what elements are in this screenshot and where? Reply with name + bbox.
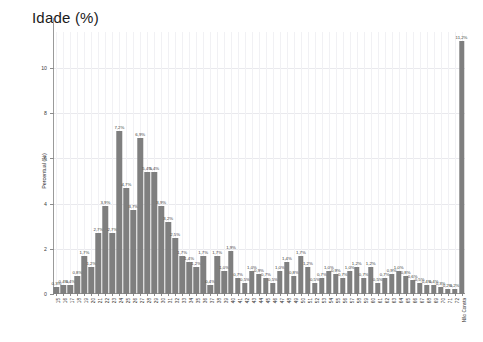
- bar[interactable]: 0,4%: [68, 285, 73, 294]
- bar[interactable]: 2,7%: [96, 233, 101, 294]
- bar-group[interactable]: 0,9%55: [332, 32, 339, 294]
- bar-group[interactable]: 11,2%Não Consta: [458, 32, 465, 294]
- bar-group[interactable]: 3,9%22: [102, 32, 109, 294]
- bar-group[interactable]: 0,8%18: [74, 32, 81, 294]
- bar[interactable]: 0,5%: [242, 283, 247, 294]
- bar-group[interactable]: 1,9%40: [228, 32, 235, 294]
- bar[interactable]: 2,7%: [110, 233, 115, 294]
- bar[interactable]: 0,4%: [424, 285, 429, 294]
- bar[interactable]: 0,4%: [207, 285, 212, 294]
- bar-group[interactable]: 1,2%35: [193, 32, 200, 294]
- bar-group[interactable]: 1,0%54: [325, 32, 332, 294]
- bar-group[interactable]: 1,0%47: [276, 32, 283, 294]
- bar-group[interactable]: 5,4%29: [151, 32, 158, 294]
- bar-group[interactable]: 7,2%24: [116, 32, 123, 294]
- bar-group[interactable]: 0,4%69: [430, 32, 437, 294]
- bar-group[interactable]: 0,5%42: [242, 32, 249, 294]
- bar-group[interactable]: 0,9%44: [256, 32, 263, 294]
- bar[interactable]: 1,4%: [186, 262, 191, 294]
- bar-group[interactable]: 1,0%64: [395, 32, 402, 294]
- bar[interactable]: 1,0%: [277, 271, 282, 294]
- bar-group[interactable]: 0,5%67: [416, 32, 423, 294]
- bar-group[interactable]: 1,4%34: [186, 32, 193, 294]
- bar[interactable]: 0,8%: [291, 276, 296, 294]
- bar-group[interactable]: 1,7%33: [179, 32, 186, 294]
- bar-group[interactable]: 1,0%57: [346, 32, 353, 294]
- bar[interactable]: 0,9%: [389, 274, 394, 294]
- bar-group[interactable]: 0,7%56: [339, 32, 346, 294]
- bar-group[interactable]: 3,2%31: [165, 32, 172, 294]
- bar-group[interactable]: 4,7%25: [123, 32, 130, 294]
- bar[interactable]: 0,4%: [61, 285, 66, 294]
- bar[interactable]: 5,4%: [152, 172, 157, 294]
- bar-group[interactable]: 1,7%50: [297, 32, 304, 294]
- bar[interactable]: 0,5%: [312, 283, 317, 294]
- bar-group[interactable]: 1,7%36: [200, 32, 207, 294]
- bar[interactable]: 5,4%: [145, 172, 150, 294]
- bar[interactable]: 1,2%: [193, 267, 198, 294]
- bar[interactable]: 1,0%: [347, 271, 352, 294]
- bar-group[interactable]: 0,4%16: [60, 32, 67, 294]
- bar[interactable]: 6,9%: [138, 138, 143, 294]
- bar-group[interactable]: 0,7%53: [318, 32, 325, 294]
- bar-group[interactable]: 2,7%21: [95, 32, 102, 294]
- bar[interactable]: 7,2%: [117, 131, 122, 294]
- bar-group[interactable]: 0,7%59: [360, 32, 367, 294]
- bar-group[interactable]: 0,8%49: [290, 32, 297, 294]
- bar[interactable]: 1,0%: [249, 271, 254, 294]
- bar-group[interactable]: 0,3%15: [53, 32, 60, 294]
- bar-group[interactable]: 1,7%38: [214, 32, 221, 294]
- bar[interactable]: 0,7%: [361, 278, 366, 294]
- bar[interactable]: 0,7%: [319, 278, 324, 294]
- bar-group[interactable]: 0,7%41: [235, 32, 242, 294]
- bar[interactable]: 0,4%: [431, 285, 436, 294]
- bar-group[interactable]: 0,6%66: [409, 32, 416, 294]
- bar[interactable]: 1,2%: [354, 267, 359, 294]
- bar-group[interactable]: 0,4%17: [67, 32, 74, 294]
- bar[interactable]: 1,7%: [200, 256, 205, 294]
- bar-group[interactable]: 1,7%19: [81, 32, 88, 294]
- bar[interactable]: 0,5%: [375, 283, 380, 294]
- bar-group[interactable]: 0,9%63: [388, 32, 395, 294]
- bar-group[interactable]: 1,2%51: [304, 32, 311, 294]
- bar-group[interactable]: 2,7%23: [109, 32, 116, 294]
- bar[interactable]: 1,0%: [221, 271, 226, 294]
- bar[interactable]: 0,3%: [54, 287, 59, 294]
- bar-group[interactable]: 3,7%26: [130, 32, 137, 294]
- bar-group[interactable]: 0,2%71: [444, 32, 451, 294]
- bar[interactable]: 0,7%: [340, 278, 345, 294]
- bar-group[interactable]: 1,0%39: [221, 32, 228, 294]
- bar[interactable]: 0,5%: [417, 283, 422, 294]
- bar-group[interactable]: 0,4%68: [423, 32, 430, 294]
- bar[interactable]: 3,7%: [131, 210, 136, 294]
- bar-group[interactable]: 1,2%60: [367, 32, 374, 294]
- bar[interactable]: 0,5%: [270, 283, 275, 294]
- bar-group[interactable]: 0,7%45: [262, 32, 269, 294]
- bar[interactable]: 1,4%: [284, 262, 289, 294]
- bar-group[interactable]: 0,5%52: [311, 32, 318, 294]
- bar-group[interactable]: 5,4%28: [144, 32, 151, 294]
- bar[interactable]: 1,2%: [89, 267, 94, 294]
- bar[interactable]: 2,5%: [172, 238, 177, 294]
- bar-group[interactable]: 1,4%48: [283, 32, 290, 294]
- bar[interactable]: 11,2%: [459, 41, 464, 294]
- bar-group[interactable]: 2,5%32: [172, 32, 179, 294]
- bar[interactable]: 1,0%: [326, 271, 331, 294]
- bar-group[interactable]: 0,3%70: [437, 32, 444, 294]
- bar-group[interactable]: 0,4%37: [207, 32, 214, 294]
- bar[interactable]: 3,9%: [103, 206, 108, 294]
- bar-group[interactable]: 1,2%58: [353, 32, 360, 294]
- bar-group[interactable]: 6,9%27: [137, 32, 144, 294]
- bar[interactable]: 0,8%: [75, 276, 80, 294]
- bar-group[interactable]: 3,9%30: [158, 32, 165, 294]
- bar-group[interactable]: 1,0%43: [249, 32, 256, 294]
- bar[interactable]: 1,7%: [214, 256, 219, 294]
- bar-group[interactable]: 0,5%46: [269, 32, 276, 294]
- bar-group[interactable]: 0,7%62: [381, 32, 388, 294]
- bar-group[interactable]: 1,2%20: [88, 32, 95, 294]
- bar-group[interactable]: 0,5%61: [374, 32, 381, 294]
- bar-group[interactable]: 0,2%72: [451, 32, 458, 294]
- bar-group[interactable]: 0,8%65: [402, 32, 409, 294]
- bar[interactable]: 0,7%: [382, 278, 387, 294]
- bar[interactable]: 0,6%: [410, 280, 415, 294]
